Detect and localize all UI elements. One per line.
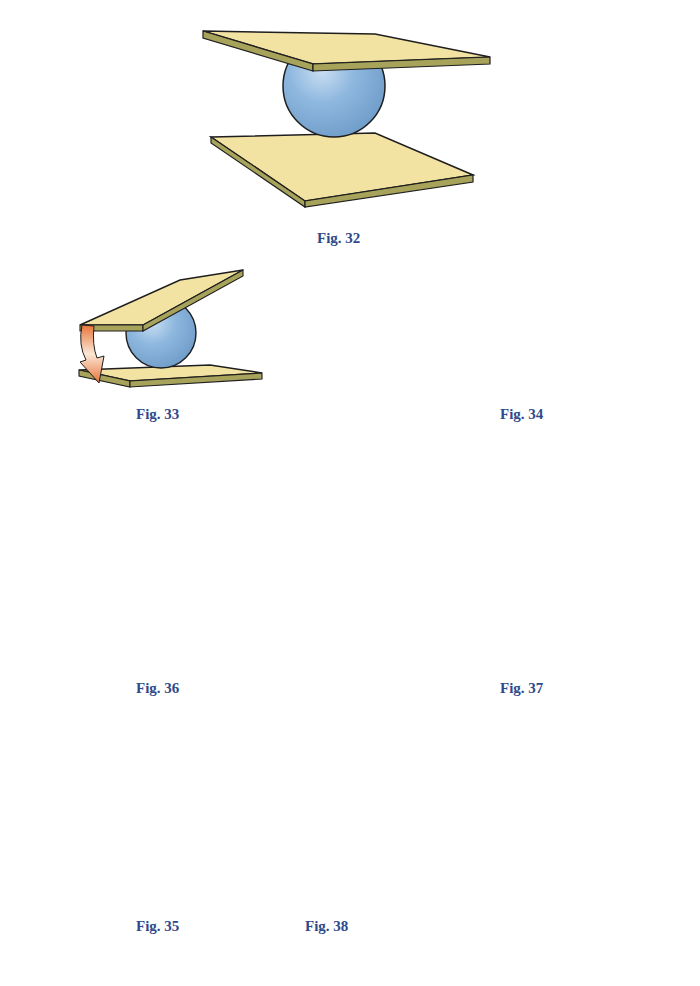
caption-fig-34: Fig. 34 bbox=[500, 406, 543, 423]
caption-fig-37: Fig. 37 bbox=[500, 680, 543, 697]
caption-fig-35: Fig. 35 bbox=[136, 918, 179, 935]
caption-fig-33: Fig. 33 bbox=[136, 406, 179, 423]
caption-fig-32: Fig. 32 bbox=[317, 230, 360, 247]
figure-33 bbox=[79, 270, 262, 387]
caption-fig-36: Fig. 36 bbox=[136, 680, 179, 697]
caption-fig-38: Fig. 38 bbox=[305, 918, 348, 935]
figure-sheet bbox=[0, 0, 700, 986]
figure-32 bbox=[203, 31, 490, 207]
